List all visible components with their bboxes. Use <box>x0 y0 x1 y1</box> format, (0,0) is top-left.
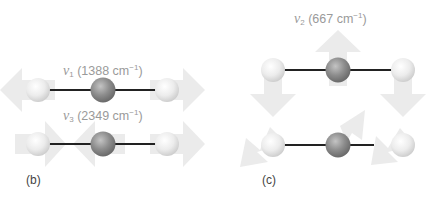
wavenumber: (667 cm <box>308 12 353 26</box>
subscript: 1 <box>69 70 73 79</box>
oxygen-atom <box>261 133 285 157</box>
oxygen-atom <box>26 132 50 156</box>
oxygen-atom <box>155 78 179 102</box>
paren: ) <box>138 109 142 123</box>
subscript: 3 <box>69 115 73 124</box>
paren: ) <box>362 12 366 26</box>
mode-label-nu3: ν3 (2349 cm−1) <box>63 109 143 124</box>
carbon-atom <box>91 132 116 157</box>
oxygen-atom <box>26 78 50 102</box>
arrow-down-icon <box>250 76 296 117</box>
arrow-down-icon <box>380 76 426 117</box>
mode-label-nu1: ν1 (1388 cm−1) <box>63 64 143 79</box>
paren: ) <box>138 64 142 78</box>
oxygen-atom <box>261 58 285 82</box>
mode-label-nu2: ν2 (667 cm−1) <box>294 12 367 27</box>
carbon-atom <box>326 58 351 83</box>
oxygen-atom <box>155 132 179 156</box>
carbon-atom <box>91 78 116 103</box>
carbon-atom <box>326 133 351 158</box>
panel-label-b: (b) <box>26 174 41 186</box>
vibrational-modes-diagram <box>0 0 436 197</box>
panel-label-c: (c) <box>262 174 276 186</box>
subscript: 2 <box>300 18 304 27</box>
wavenumber: (1388 cm <box>77 64 129 78</box>
oxygen-atom <box>391 133 415 157</box>
oxygen-atom <box>391 58 415 82</box>
wavenumber: (2349 cm <box>77 109 129 123</box>
